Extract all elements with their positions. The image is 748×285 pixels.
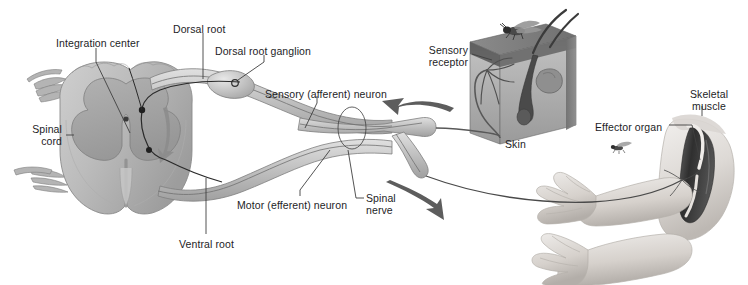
synapse-lower bbox=[146, 147, 152, 153]
dorsal-root-ganglion-body bbox=[207, 71, 254, 99]
afferent-arrow bbox=[382, 98, 454, 115]
ventral-rootlets-left bbox=[14, 167, 68, 192]
nerve-efferent-branch bbox=[392, 132, 428, 178]
label-dorsal-root: Dorsal root bbox=[173, 23, 225, 35]
label-integration-center: Integration center bbox=[56, 37, 140, 49]
label-skeletal-muscle: Skeletal muscle bbox=[681, 88, 737, 112]
hand-upper bbox=[537, 172, 596, 224]
ventral-root-nerve bbox=[158, 139, 392, 201]
label-effector-organ: Effector organ bbox=[595, 121, 662, 133]
label-sensory-afferent-neuron: Sensory (afferent) neuron bbox=[265, 88, 387, 100]
label-motor-efferent-neuron: Motor (efferent) neuron bbox=[237, 199, 347, 211]
skin-side-face bbox=[566, 36, 576, 130]
skin-block bbox=[436, 10, 578, 144]
label-ventral-root: Ventral root bbox=[179, 238, 234, 250]
label-spinal-nerve: Spinal nerve bbox=[366, 192, 406, 216]
label-dorsal-root-ganglion: Dorsal root ganglion bbox=[215, 45, 311, 57]
label-sensory-receptor: Sensory receptor bbox=[405, 44, 468, 68]
fly-near-hand bbox=[611, 142, 632, 154]
leader-spinal-nerve bbox=[348, 150, 364, 198]
effector-arm-group bbox=[426, 115, 734, 285]
label-spinal-cord: Spinal cord bbox=[20, 123, 62, 147]
label-skin: Skin bbox=[505, 138, 526, 150]
